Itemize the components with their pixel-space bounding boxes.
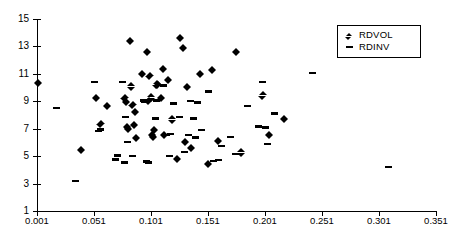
data-point-rdvol [196,66,204,74]
data-point-rdinv [192,136,199,138]
y-tick-13 [33,46,41,47]
chart-legend: RDVOL RDINV [337,25,421,58]
data-point-rdvol [259,87,267,95]
y-tick-label-11: 11 [0,69,29,79]
data-point-rdinv [122,116,129,118]
data-point-rdvol [164,72,172,80]
data-point-rdvol [232,44,240,52]
data-point-rdinv [264,143,271,145]
data-point-rdvol [157,90,165,98]
data-point-rdinv [227,136,234,138]
x-tick-label-0.151: 0.151 [188,216,228,226]
y-tick-15 [33,19,41,20]
data-point-rdinv [112,158,119,160]
data-point-rdinv [167,133,174,135]
diamond-marker-icon [342,29,356,41]
y-tick-label-15: 15 [0,14,29,24]
data-point-rdinv [121,161,128,163]
data-point-rdinv [271,112,278,114]
data-point-rdinv [124,141,131,143]
data-point-rdinv [114,154,121,156]
y-tick-label-13: 13 [0,41,29,51]
y-tick-label-5: 5 [0,151,29,161]
y-tick-3 [33,184,41,185]
x-tick-label-0.251: 0.251 [302,216,342,226]
data-point-rdvol [132,130,140,138]
data-point-rdinv [190,117,197,119]
data-point-rdinv [385,166,392,168]
y-tick-label-9: 9 [0,96,29,106]
x-tick-label-0.001: 0.001 [17,216,57,226]
data-point-rdvol [187,140,195,148]
x-tick-label-0.301: 0.301 [359,216,399,226]
data-point-rdinv [194,101,201,103]
data-point-rdinv [181,151,188,153]
y-tick-5 [33,156,41,157]
legend-label-rdinv: RDINV [359,41,390,53]
data-point-rdvol [126,33,134,41]
data-point-rdvol [143,44,151,52]
data-point-rdvol [146,68,154,76]
x-tick-label-0.051: 0.051 [74,216,114,226]
data-point-rdinv [198,129,205,131]
y-tick-7 [33,129,41,130]
x-tick-label-0.351: 0.351 [416,216,452,226]
data-point-rdinv [97,128,104,130]
data-point-rdvol [280,111,288,119]
legend-entry-rdinv: RDINV [342,41,416,53]
data-point-rdinv [53,107,60,109]
data-point-rdinv [176,116,183,118]
data-point-rdvol [138,66,146,74]
y-tick-9 [33,101,41,102]
legend-label-rdvol: RDVOL [359,29,393,41]
data-point-rdvol [176,30,184,38]
data-point-rdvol [127,78,135,86]
x-tick-label-0.201: 0.201 [245,216,285,226]
data-point-rdinv [259,81,266,83]
data-point-rdvol [208,62,216,70]
data-point-rdvol [131,104,139,112]
data-point-rdinv [72,180,79,182]
x-axis-line [37,211,436,212]
data-point-rdinv [170,102,177,104]
data-point-rdinv [215,159,222,161]
data-point-rdinv [309,72,316,74]
x-tick-label-0.101: 0.101 [131,216,171,226]
data-point-rdvol [183,79,191,87]
data-point-rdinv [119,81,126,83]
data-point-rdinv [152,117,159,119]
data-point-rdinv [218,145,225,147]
data-point-rdinv [145,161,152,163]
data-point-rdinv [91,81,98,83]
data-point-rdvol [92,90,100,98]
data-point-rdinv [141,101,148,103]
data-point-rdinv [160,84,167,86]
data-point-rdvol [237,144,245,152]
y-tick-label-7: 7 [0,124,29,134]
data-point-rdinv [153,99,160,101]
legend-entry-rdvol: RDVOL [342,29,416,41]
data-point-rdinv [166,155,173,157]
data-point-rdinv [244,105,251,107]
data-point-rdvol [97,116,105,124]
data-point-rdvol [103,98,111,106]
data-point-rdinv [262,126,269,128]
data-point-rdvol [214,133,222,141]
data-point-rdvol [77,142,85,150]
data-point-rdvol [179,40,187,48]
dash-marker-icon [342,41,356,53]
data-point-rdvol [150,122,158,130]
data-point-rdvol [34,75,42,83]
data-point-rdinv [129,155,136,157]
data-point-rdinv [232,153,239,155]
data-point-rdinv [205,90,212,92]
data-point-rdvol [159,61,167,69]
y-tick-label-3: 3 [0,179,29,189]
